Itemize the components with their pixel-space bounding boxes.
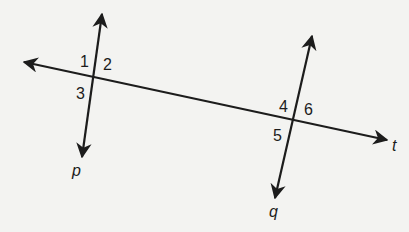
angle-label-1: 1 [80,53,89,70]
line-label-t: t [392,137,397,154]
angle-label-4: 4 [279,98,288,115]
angle-label-2: 2 [103,56,112,73]
line-p [82,14,102,157]
angle-label-3: 3 [76,85,85,102]
angle-label-6: 6 [304,101,313,118]
transversal-diagram: 1 2 3 4 6 5 p q t [0,0,409,232]
line-label-p: p [71,162,81,179]
line-label-q: q [269,203,278,220]
angle-label-5: 5 [273,127,282,144]
